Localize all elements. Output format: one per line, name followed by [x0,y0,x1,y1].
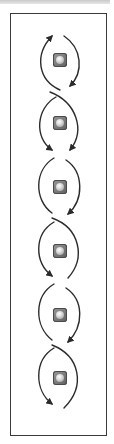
helix-strand [66,288,80,342]
node-icon [53,371,67,385]
node-icon [53,244,67,258]
helix-strand [39,158,54,213]
helix-strand [39,284,54,340]
node-icon [53,308,67,322]
helix-strand [66,160,80,214]
helix-strand [39,348,54,404]
node-icon [53,180,67,194]
node-icon [53,53,67,67]
node-icon [53,116,67,130]
helix-strand [39,222,54,276]
